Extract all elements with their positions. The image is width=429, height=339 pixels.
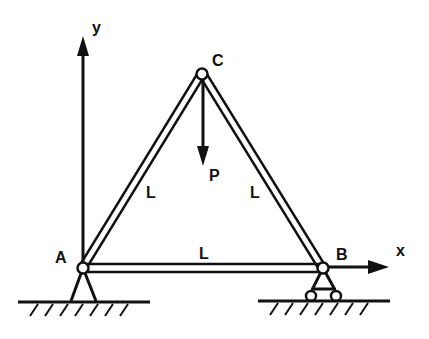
joint-b (318, 263, 329, 274)
member-label-ab: L (199, 245, 209, 262)
member-ac (80, 71, 205, 269)
y-axis (77, 36, 89, 268)
load-arrow-p (197, 78, 209, 166)
member-ab (83, 264, 323, 272)
joint-a (78, 263, 89, 274)
member-label-ac: L (146, 184, 156, 201)
truss-diagram: y x A B C P L L L (0, 0, 429, 339)
x-axis (323, 260, 389, 274)
node-label-c: C (212, 52, 224, 69)
y-axis-label: y (92, 19, 101, 36)
pin-support-a (18, 268, 150, 316)
node-label-a: A (55, 249, 67, 266)
x-axis-label: x (396, 242, 405, 259)
node-label-b: B (336, 246, 348, 263)
joint-c (197, 69, 208, 80)
roller-support-b (258, 268, 390, 315)
member-label-cb: L (250, 184, 260, 201)
load-label-p: P (209, 167, 220, 184)
